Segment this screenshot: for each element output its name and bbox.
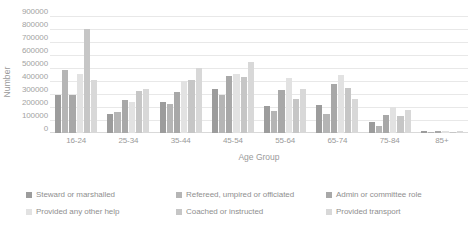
x-tick-label: 35-44 [155, 136, 207, 145]
bar[interactable] [286, 78, 292, 133]
bar[interactable] [114, 112, 120, 133]
bar[interactable] [435, 131, 441, 133]
bar[interactable] [397, 116, 403, 133]
bar[interactable] [196, 68, 202, 133]
legend-item[interactable]: Steward or marshalled [26, 190, 176, 199]
bar-groups [50, 16, 468, 133]
legend-swatch-icon [176, 209, 182, 215]
bar[interactable] [69, 95, 75, 133]
y-tick-label: 500000 [22, 60, 48, 68]
bar[interactable] [226, 76, 232, 133]
bar[interactable] [442, 131, 448, 133]
x-tick-label: 75-84 [364, 136, 416, 145]
bar[interactable] [376, 126, 382, 133]
bar[interactable] [300, 89, 306, 133]
bar[interactable] [91, 80, 97, 133]
bar[interactable] [405, 110, 411, 133]
bar-group [102, 16, 154, 133]
legend-label: Provided transport [336, 207, 400, 216]
bar[interactable] [316, 105, 322, 133]
legend-item[interactable]: Coached or instructed [176, 207, 326, 216]
bar[interactable] [174, 92, 180, 133]
bar[interactable] [136, 91, 142, 133]
bar-group [50, 16, 102, 133]
y-tick-label: 300000 [22, 86, 48, 94]
bar[interactable] [428, 132, 434, 133]
y-tick-label: 100000 [22, 112, 48, 120]
x-axis-tick-labels: 16-2425-3435-4445-5455-6465-7475-8485+ [50, 136, 468, 145]
legend-label: Admin or committee role [336, 190, 422, 199]
legend-swatch-icon [26, 192, 32, 198]
bar[interactable] [84, 29, 90, 133]
bar-group [207, 16, 259, 133]
bar[interactable] [383, 115, 389, 133]
bar-group [364, 16, 416, 133]
legend-swatch-icon [176, 192, 182, 198]
x-tick-label: 85+ [416, 136, 468, 145]
bar-group [311, 16, 363, 133]
bar[interactable] [369, 122, 375, 133]
legend-swatch-icon [26, 209, 32, 215]
bar[interactable] [143, 89, 149, 133]
legend-item[interactable]: Provided transport [326, 207, 456, 216]
bar[interactable] [122, 100, 128, 133]
bar[interactable] [390, 107, 396, 133]
bar[interactable] [421, 131, 427, 133]
y-tick-label: 0 [44, 125, 48, 133]
bar[interactable] [345, 88, 351, 133]
y-tick-label: 700000 [22, 34, 48, 42]
x-tick-label: 25-34 [102, 136, 154, 145]
bar[interactable] [107, 114, 113, 134]
bar[interactable] [248, 62, 254, 133]
bar-group [416, 16, 468, 133]
bar[interactable] [160, 102, 166, 133]
bar[interactable] [352, 99, 358, 133]
bar[interactable] [62, 70, 68, 133]
chart-legend: Steward or marshalledRefereed, umpired o… [26, 186, 456, 220]
x-tick-label: 16-24 [50, 136, 102, 145]
bar[interactable] [338, 75, 344, 133]
bar[interactable] [55, 95, 61, 133]
bar[interactable] [212, 89, 218, 133]
x-tick-label: 55-64 [259, 136, 311, 145]
bar-group [259, 16, 311, 133]
y-tick-label: 400000 [22, 73, 48, 81]
y-tick-label: 900000 [22, 8, 48, 16]
y-tick-label: 600000 [22, 47, 48, 55]
legend-label: Refereed, umpired or officiated [186, 190, 294, 199]
x-axis-title: Age Group [50, 152, 468, 162]
bar[interactable] [450, 132, 456, 133]
bar[interactable] [331, 84, 337, 133]
bar[interactable] [219, 95, 225, 133]
bar[interactable] [129, 102, 135, 133]
legend-item[interactable]: Admin or committee role [326, 190, 456, 199]
legend-swatch-icon [326, 192, 332, 198]
bar[interactable] [77, 74, 83, 133]
legend-label: Coached or instructed [186, 207, 263, 216]
y-axis-tick-labels: 9000008000007000006000005000004000003000… [8, 12, 48, 136]
y-tick-label: 200000 [22, 99, 48, 107]
bar[interactable] [271, 111, 277, 133]
bar-chart: Number 900000800000700000600000500000400… [0, 0, 474, 225]
legend-label: Steward or marshalled [36, 190, 115, 199]
plot-area [50, 16, 468, 133]
legend-label: Provided any other help [36, 207, 119, 216]
bar[interactable] [323, 114, 329, 134]
x-tick-label: 65-74 [311, 136, 363, 145]
bar[interactable] [278, 90, 284, 133]
legend-item[interactable]: Refereed, umpired or officiated [176, 190, 326, 199]
bar[interactable] [264, 106, 270, 133]
bar[interactable] [188, 80, 194, 133]
bar[interactable] [241, 77, 247, 133]
y-tick-label: 800000 [22, 21, 48, 29]
legend-swatch-icon [326, 209, 332, 215]
bar-group [155, 16, 207, 133]
bar[interactable] [181, 81, 187, 133]
bar[interactable] [167, 104, 173, 133]
bar[interactable] [233, 74, 239, 133]
x-tick-label: 45-54 [207, 136, 259, 145]
bar[interactable] [457, 131, 463, 133]
legend-item[interactable]: Provided any other help [26, 207, 176, 216]
bar[interactable] [293, 99, 299, 133]
